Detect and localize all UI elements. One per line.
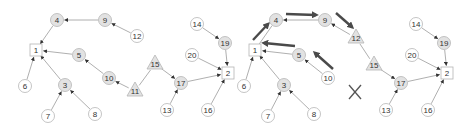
node-1: 1	[249, 44, 261, 56]
edge-6-to-1	[27, 57, 34, 79]
bold-arrow-icon	[286, 14, 316, 15]
edge-12-to-9	[332, 24, 350, 35]
node-label: 20	[188, 51, 197, 60]
edge-4-to-1	[259, 26, 272, 44]
bold-arrow-icon	[264, 43, 295, 46]
edge-19-to-2	[226, 50, 228, 66]
bold-arrow-icon	[315, 53, 333, 69]
node-label: 10	[324, 74, 333, 83]
node-label: 1	[34, 46, 39, 55]
edge-11-to-10	[116, 81, 129, 88]
node-3: 3	[59, 79, 72, 92]
edge-12-to-9	[112, 23, 131, 33]
node-label: 5	[77, 51, 82, 60]
node-7: 7	[262, 110, 275, 123]
node-label: 16	[204, 106, 213, 115]
node-16: 16	[422, 104, 435, 117]
node-label: 10	[105, 74, 114, 83]
node-17: 17	[395, 77, 408, 90]
node-label: 1	[253, 46, 258, 55]
left-graph-panel: 12345678910111213141516171920	[19, 14, 235, 123]
node-label: 7	[266, 112, 271, 121]
node-label: 6	[242, 82, 247, 91]
node-6: 6	[238, 80, 251, 93]
node-label: 15	[370, 61, 379, 70]
node-label: 14	[412, 20, 421, 29]
edge-8-to-3	[70, 90, 90, 109]
node-6: 6	[19, 80, 32, 93]
edge-4-to-1	[40, 26, 53, 44]
node-label: 12	[352, 34, 361, 43]
node-5: 5	[73, 49, 86, 62]
edge-16-to-2	[431, 80, 443, 104]
right-graph-panel: 123456789101213141516171920	[238, 13, 454, 123]
edge-20-to-2	[418, 58, 440, 69]
edge-3-to-1	[41, 56, 61, 80]
node-14: 14	[410, 18, 423, 31]
node-20: 20	[186, 49, 199, 62]
node-label: 6	[23, 82, 28, 91]
node-12: 12	[131, 30, 144, 43]
node-4: 4	[270, 14, 283, 27]
node-3: 3	[278, 79, 291, 92]
edge-17-to-2	[408, 75, 440, 82]
node-10: 10	[322, 72, 335, 85]
node-label: 17	[177, 79, 186, 88]
edge-14-to-19	[422, 28, 438, 39]
node-19: 19	[438, 37, 451, 50]
node-label: 16	[424, 106, 433, 115]
edge-19-to-2	[445, 50, 447, 66]
edge-14-to-19	[203, 28, 219, 39]
edge-15-to-17	[161, 68, 175, 79]
node-label: 15	[151, 60, 160, 69]
node-label: 17	[397, 79, 406, 88]
edge-13-to-17	[389, 90, 397, 104]
edge-3-to-1	[260, 56, 280, 80]
node-label: 9	[323, 16, 328, 25]
node-17: 17	[175, 77, 188, 90]
graph-diagram: 12345678910111213141516171920 1234567891…	[0, 0, 475, 127]
edge-12-to-15	[360, 44, 370, 59]
node-9: 9	[319, 14, 332, 27]
x-mark-icon	[349, 85, 361, 99]
edge-20-to-2	[198, 58, 221, 70]
node-label: 5	[297, 51, 302, 60]
node-label: 2	[226, 69, 231, 78]
node-label: 13	[382, 106, 391, 115]
node-label: 14	[193, 20, 202, 29]
node-12: 12	[348, 29, 364, 43]
node-label: 19	[221, 39, 230, 48]
node-16: 16	[202, 104, 215, 117]
bold-arrow-icon	[336, 13, 352, 27]
edge-7-to-3	[271, 92, 280, 110]
bold-arrow-icon	[253, 24, 268, 40]
node-2: 2	[441, 67, 453, 79]
node-5: 5	[293, 49, 306, 62]
edge-10-to-5	[85, 60, 103, 74]
node-4: 4	[51, 14, 64, 27]
edge-5-to-1	[263, 51, 293, 54]
edge-5-to-1	[43, 51, 72, 54]
edge-10-to-5	[305, 60, 323, 74]
node-1: 1	[30, 44, 42, 56]
node-19: 19	[219, 37, 232, 50]
node-label: 3	[282, 81, 287, 90]
edge-13-to-17	[170, 90, 177, 104]
node-label: 20	[408, 51, 417, 60]
node-8: 8	[89, 108, 102, 121]
node-label: 4	[55, 16, 60, 25]
node-label: 9	[103, 16, 108, 25]
node-14: 14	[191, 18, 204, 31]
node-15: 15	[147, 55, 163, 69]
node-label: 2	[445, 69, 450, 78]
node-9: 9	[99, 14, 112, 27]
node-2: 2	[222, 67, 234, 79]
node-13: 13	[161, 104, 174, 117]
node-label: 8	[93, 110, 98, 119]
node-label: 12	[133, 32, 142, 41]
node-7: 7	[42, 110, 55, 123]
edge-8-to-3	[289, 90, 309, 109]
edge-7-to-3	[51, 92, 61, 110]
node-label: 7	[46, 112, 51, 121]
edge-17-to-2	[188, 75, 221, 82]
